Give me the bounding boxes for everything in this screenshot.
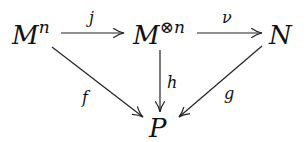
node-m-power-n: Mn	[11, 17, 50, 50]
arrow-g	[179, 46, 262, 117]
arrow-f	[52, 47, 143, 117]
commutative-diagram: Mn M⊗n N P j ν f h g	[0, 0, 306, 142]
node-n: N	[268, 20, 293, 50]
diagram-canvas: Mn M⊗n N P j ν f h g	[0, 0, 306, 142]
node-p: P	[148, 113, 167, 142]
arrow-label-h: h	[167, 73, 177, 92]
arrow-label-j: j	[86, 8, 94, 27]
arrow-label-g: g	[224, 84, 234, 103]
node-m-tensor-power-n: M⊗n	[132, 17, 185, 50]
arrow-label-f: f	[81, 88, 91, 107]
arrow-label-nu: ν	[222, 8, 232, 27]
